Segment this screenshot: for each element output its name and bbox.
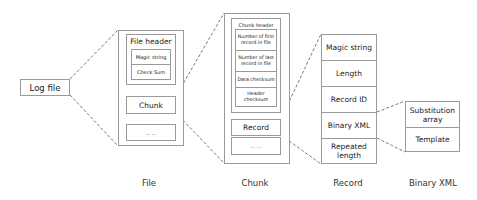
binary-xml-substitution-array: Substitution array: [405, 101, 460, 128]
field-label: Number of first record in file: [236, 34, 276, 45]
log-file-label: Log file: [30, 83, 61, 93]
log-file-box: Log file: [20, 79, 70, 96]
chunk-data-checksum: Data checksum: [235, 71, 277, 88]
chunk-header-title: Chunk header: [232, 22, 280, 28]
chunk-header-checksum: Header checksum: [235, 87, 277, 107]
binary-xml-template: Template: [405, 127, 460, 152]
field-label: Header checksum: [236, 91, 276, 102]
field-label: Number of last record in file: [236, 55, 276, 66]
caption-binary-xml: Binary XML: [403, 178, 463, 188]
caption-record: Record: [323, 178, 373, 188]
file-header-checksum: Check Sum: [131, 64, 171, 80]
file-header-magic-string: Magic string: [131, 49, 171, 65]
field-label: Repeated length: [329, 142, 369, 160]
chunk-more-box: ... ...: [231, 137, 281, 155]
field-label: Magic string: [136, 54, 167, 60]
field-label: Check Sum: [137, 69, 165, 75]
chunk-label: Chunk: [139, 101, 163, 110]
field-label: Template: [415, 135, 449, 144]
file-header-title: File header: [127, 37, 175, 46]
chunk-record-box: Record: [231, 119, 281, 136]
field-label: Data checksum: [237, 77, 274, 83]
field-label: Magic string: [326, 43, 372, 52]
record-id: Record ID: [321, 86, 377, 113]
file-chunk-box: Chunk: [126, 96, 176, 114]
field-label: Record ID: [331, 95, 367, 104]
record-magic-string: Magic string: [321, 34, 377, 61]
chunk-first-record: Number of first record in file: [235, 29, 277, 51]
file-more-box: ... ...: [126, 124, 176, 141]
record-length: Length: [321, 60, 377, 87]
record-label: Record: [243, 123, 269, 132]
field-label: Binary XML: [328, 121, 370, 130]
field-label: Length: [336, 69, 362, 78]
record-repeated-length: Repeated length: [321, 138, 377, 164]
record-binary-xml: Binary XML: [321, 112, 377, 139]
chunk-last-record: Number of last record in file: [235, 50, 277, 72]
caption-file: File: [129, 178, 169, 188]
ellipsis-label: ... ...: [145, 130, 156, 136]
field-label: Substitution array: [408, 106, 458, 124]
ellipsis-label: ... ...: [250, 143, 261, 149]
caption-chunk: Chunk: [230, 178, 280, 188]
